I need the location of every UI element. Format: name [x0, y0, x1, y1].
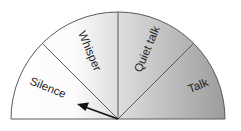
volume-gauge-diagram: Silence Whisper Quiet talk Talk: [0, 0, 241, 131]
